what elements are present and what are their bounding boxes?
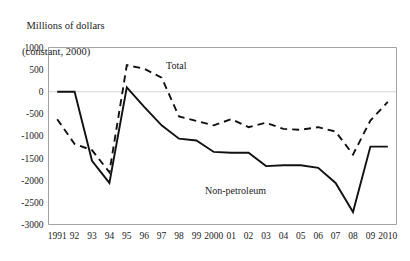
x-tick-94: 94 (105, 231, 115, 241)
x-tick-98: 98 (174, 231, 184, 241)
x-tick-99: 99 (192, 231, 202, 241)
x-tick-09: 09 (366, 231, 376, 241)
x-tick-05: 05 (296, 231, 306, 241)
series-line-total (57, 65, 388, 172)
chart-screenshot: Millions of dollars (constant, 2000) 100… (0, 0, 410, 261)
y-tick-1000: 1000 (25, 43, 44, 53)
x-tick-03: 03 (261, 231, 271, 241)
y-tick--3000: -3000 (21, 220, 43, 230)
x-tick-2010: 2010 (378, 231, 397, 241)
x-tick-1991: 1991 (48, 231, 67, 241)
x-tick-01: 01 (226, 231, 236, 241)
y-tick--1500: -1500 (21, 154, 43, 164)
x-tick-96: 96 (139, 231, 149, 241)
y-tick--2500: -2500 (21, 198, 43, 208)
x-tick-08: 08 (348, 231, 358, 241)
x-tick-2000: 2000 (204, 231, 223, 241)
x-tick-93: 93 (87, 231, 97, 241)
x-tick-92: 92 (70, 231, 80, 241)
series-annotation-non-petroleum: Non-petroleum (205, 185, 266, 196)
y-axis-tick-labels: 10005000-500-1000-1500-2000-2500-3000 (21, 43, 43, 230)
y-tick-0: 0 (39, 87, 44, 97)
series-annotation-total: Total (166, 60, 187, 71)
y-tick--1000: -1000 (21, 131, 43, 141)
x-tick-04: 04 (279, 231, 289, 241)
y-tick--500: -500 (26, 109, 44, 119)
x-axis-tick-labels: 1991929394959697989920000102030405060708… (48, 231, 398, 241)
y-tick-500: 500 (29, 65, 44, 75)
x-tick-07: 07 (331, 231, 341, 241)
x-tick-02: 02 (244, 231, 254, 241)
x-tick-95: 95 (122, 231, 132, 241)
x-tick-06: 06 (313, 231, 323, 241)
x-tick-97: 97 (157, 231, 167, 241)
line-chart: 10005000-500-1000-1500-2000-2500-3000 19… (0, 0, 410, 261)
y-tick--2000: -2000 (21, 176, 43, 186)
